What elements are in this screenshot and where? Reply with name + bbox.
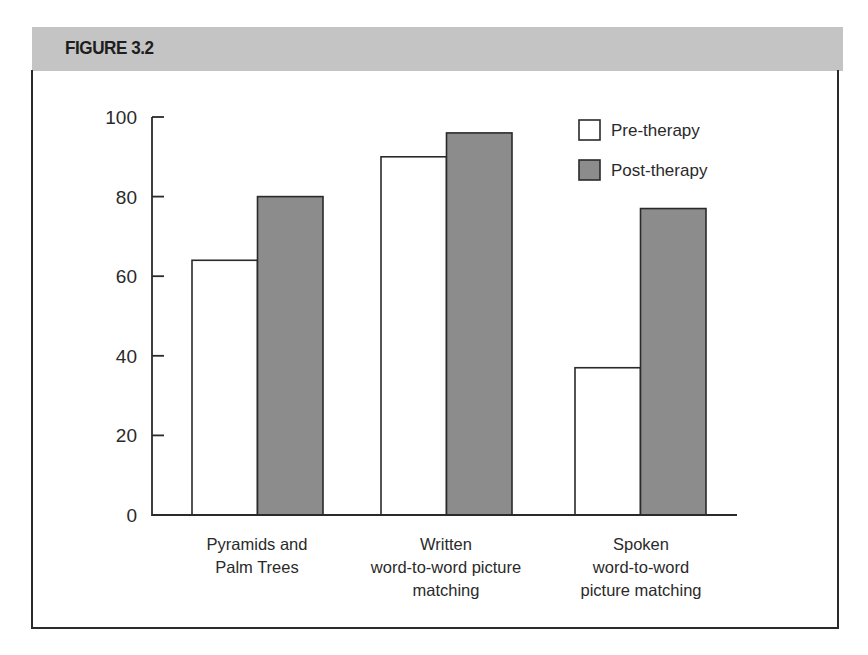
y-tick-label: 40 <box>116 346 137 367</box>
legend-swatch-post <box>579 160 600 180</box>
pre-therapy-bar <box>575 368 641 515</box>
x-category-label: Pyramids and <box>207 535 308 553</box>
x-category-label: Spoken <box>613 535 669 553</box>
y-tick-label: 20 <box>116 425 137 446</box>
bar-chart: 020406080100 Pre-therapyPost-therapy Pyr… <box>0 0 868 655</box>
y-tick-label: 0 <box>126 505 137 526</box>
y-tick-label: 80 <box>116 187 137 208</box>
bars-group <box>192 133 706 515</box>
x-category-label: Written <box>420 535 472 553</box>
y-tick-label: 100 <box>105 107 137 128</box>
post-therapy-bar <box>641 209 707 515</box>
post-therapy-bar <box>258 197 324 515</box>
x-category-label: matching <box>413 581 480 599</box>
x-category-label: picture matching <box>580 581 701 599</box>
x-category-label: word-to-word picture <box>370 558 521 576</box>
post-therapy-bar <box>447 133 513 515</box>
legend-label-post: Post-therapy <box>611 161 708 180</box>
legend-swatch-pre <box>579 120 600 140</box>
pre-therapy-bar <box>381 157 447 515</box>
y-tick-label: 60 <box>116 266 137 287</box>
x-category-label: Palm Trees <box>215 558 298 576</box>
legend-label-pre: Pre-therapy <box>611 121 700 140</box>
x-category-label: word-to-word <box>592 558 689 576</box>
legend: Pre-therapyPost-therapy <box>579 120 708 180</box>
pre-therapy-bar <box>192 260 258 515</box>
x-axis-labels: Pyramids andPalm TreesWrittenword-to-wor… <box>207 535 702 599</box>
